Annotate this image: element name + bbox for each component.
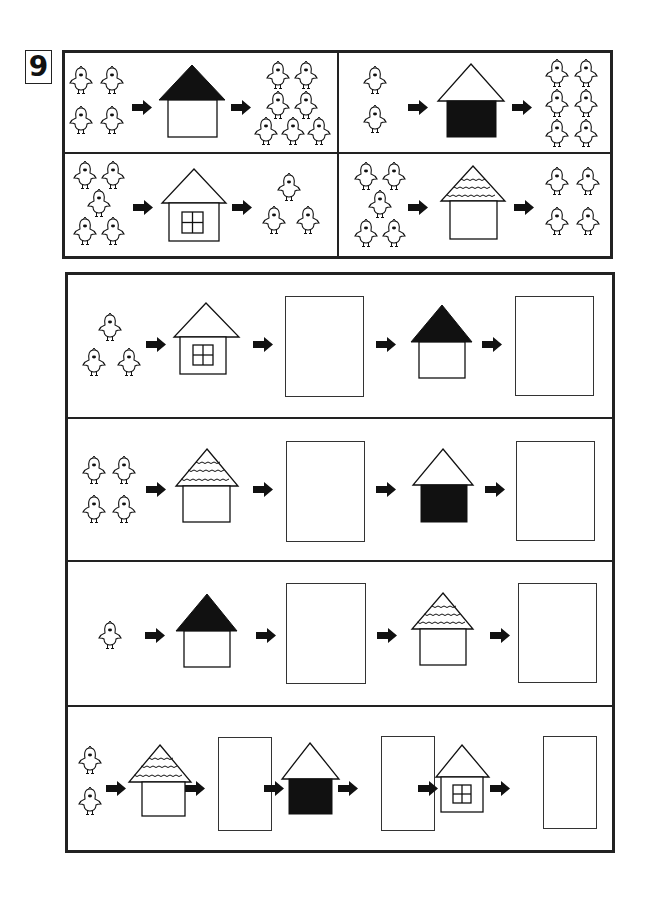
chick-icon — [364, 104, 388, 134]
scalloped-roof-house-icon — [440, 165, 508, 241]
scalloped-roof-house-icon — [174, 448, 240, 524]
arrow-right-icon — [146, 482, 168, 497]
window-house-icon — [161, 168, 229, 244]
chick-icon — [295, 60, 319, 90]
row-divider — [65, 417, 615, 419]
chick-icon — [546, 58, 570, 88]
chick-icon — [546, 166, 570, 196]
answer-box[interactable] — [285, 296, 364, 397]
chick-icon — [102, 160, 126, 190]
chick-icon — [575, 118, 599, 148]
arrow-right-icon — [338, 781, 360, 796]
chick-icon — [577, 166, 601, 196]
row-divider — [65, 560, 615, 562]
chick-icon — [83, 494, 107, 524]
chick-icon — [83, 347, 107, 377]
chick-icon — [79, 786, 103, 816]
chick-icon — [79, 745, 103, 775]
arrow-right-icon — [376, 337, 398, 352]
arrow-right-icon — [482, 337, 504, 352]
arrow-right-icon — [106, 781, 128, 796]
window-house-icon — [435, 744, 495, 816]
arrow-right-icon — [256, 628, 278, 643]
arrow-right-icon — [490, 781, 512, 796]
chick-icon — [99, 312, 123, 342]
black-wall-house-icon — [281, 742, 345, 818]
chick-icon — [70, 65, 94, 95]
chick-icon — [577, 206, 601, 236]
window-house-icon — [173, 302, 241, 376]
black-roof-house-icon — [174, 593, 240, 669]
chick-icon — [546, 118, 570, 148]
chick-icon — [364, 65, 388, 95]
arrow-right-icon — [512, 100, 534, 115]
arrow-right-icon — [185, 781, 207, 796]
arrow-right-icon — [145, 628, 167, 643]
arrow-right-icon — [408, 200, 430, 215]
arrow-right-icon — [231, 100, 253, 115]
chick-icon — [70, 105, 94, 135]
chick-icon — [255, 116, 279, 146]
arrow-right-icon — [253, 337, 275, 352]
arrow-right-icon — [408, 100, 430, 115]
arrow-right-icon — [514, 200, 536, 215]
chick-icon — [282, 116, 306, 146]
chick-icon — [575, 88, 599, 118]
arrow-right-icon — [232, 200, 254, 215]
chick-icon — [113, 494, 137, 524]
chick-icon — [383, 218, 407, 248]
arrow-right-icon — [490, 628, 512, 643]
chick-icon — [74, 216, 98, 246]
chick-icon — [278, 172, 302, 202]
arrow-right-icon — [132, 100, 154, 115]
chick-icon — [113, 455, 137, 485]
black-wall-house-icon — [437, 63, 507, 139]
chick-icon — [546, 206, 570, 236]
chick-icon — [355, 218, 379, 248]
scalloped-roof-house-icon — [127, 744, 193, 820]
chick-icon — [74, 160, 98, 190]
arrow-right-icon — [253, 482, 275, 497]
chick-icon — [546, 88, 570, 118]
chick-icon — [297, 205, 321, 235]
chick-icon — [88, 188, 112, 218]
problem-number-badge: 9 — [25, 50, 52, 84]
chick-icon — [118, 347, 142, 377]
answer-box[interactable] — [518, 583, 597, 683]
black-roof-house-icon — [158, 64, 228, 139]
arrow-right-icon — [376, 482, 398, 497]
chick-icon — [308, 116, 332, 146]
chick-icon — [101, 105, 125, 135]
black-roof-house-icon — [409, 304, 475, 378]
scalloped-roof-house-icon — [410, 592, 476, 668]
arrow-right-icon — [377, 628, 399, 643]
chick-icon — [99, 620, 123, 650]
arrow-right-icon — [146, 337, 168, 352]
chick-icon — [355, 161, 379, 191]
answer-box[interactable] — [543, 736, 597, 829]
black-wall-house-icon — [411, 448, 477, 524]
answer-box[interactable] — [515, 296, 594, 396]
row-divider — [65, 705, 615, 707]
arrow-right-icon — [485, 482, 507, 497]
legend-divider-horizontal — [62, 152, 613, 154]
answer-box[interactable] — [286, 441, 365, 542]
answer-box[interactable] — [286, 583, 366, 684]
chick-icon — [267, 60, 291, 90]
chick-icon — [383, 161, 407, 191]
chick-icon — [102, 216, 126, 246]
chick-icon — [369, 189, 393, 219]
legend-divider-vertical — [337, 50, 339, 259]
answer-box[interactable] — [516, 441, 595, 541]
chick-icon — [101, 65, 125, 95]
arrow-right-icon — [133, 200, 155, 215]
chick-icon — [263, 205, 287, 235]
chick-icon — [575, 58, 599, 88]
chick-icon — [83, 455, 107, 485]
